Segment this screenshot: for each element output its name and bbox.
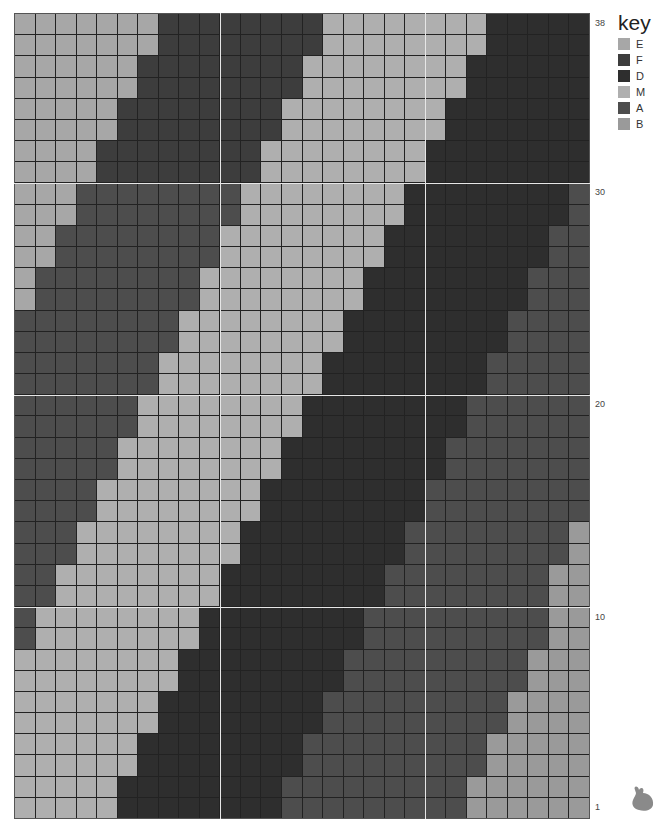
chart-cell — [97, 480, 117, 500]
chart-cell — [220, 544, 240, 564]
chart-cell — [220, 183, 240, 203]
chart-cell — [569, 120, 589, 140]
chart-cell — [97, 544, 117, 564]
chart-cell — [200, 247, 220, 267]
chart-cell — [569, 332, 589, 352]
chart-cell — [36, 353, 56, 373]
chart-cell — [159, 734, 179, 754]
chart-cell — [77, 544, 97, 564]
chart-cell — [56, 480, 76, 500]
chart-cell — [405, 99, 425, 119]
chart-cell — [179, 416, 199, 436]
chart-cell — [323, 353, 343, 373]
chart-cell — [508, 628, 528, 648]
chart-cell — [323, 374, 343, 394]
chart-cell — [385, 734, 405, 754]
chart-cell — [36, 374, 56, 394]
chart-cell — [77, 607, 97, 627]
chart-cell — [528, 777, 548, 797]
chart-cell — [97, 755, 117, 775]
chart-cell — [261, 544, 281, 564]
chart-cell — [303, 438, 323, 458]
chart-cell — [56, 586, 76, 606]
chart-cell — [77, 713, 97, 733]
chart-cell — [549, 692, 569, 712]
chart-cell — [56, 734, 76, 754]
chart-cell — [36, 205, 56, 225]
chart-cell — [487, 501, 507, 521]
chart-cell — [56, 332, 76, 352]
chart-cell — [549, 438, 569, 458]
chart-cell — [241, 416, 261, 436]
chart-cell — [159, 268, 179, 288]
chart-cell — [323, 289, 343, 309]
chart-cell — [426, 586, 446, 606]
chart-cell — [508, 544, 528, 564]
chart-cell — [220, 798, 240, 818]
chart-cell — [200, 777, 220, 797]
chart-cell — [179, 628, 199, 648]
chart-cell — [569, 14, 589, 34]
legend-label: A — [636, 102, 643, 114]
chart-cell — [405, 226, 425, 246]
chart-cell — [364, 205, 384, 225]
chart-cell — [159, 438, 179, 458]
chart-cell — [56, 522, 76, 542]
chart-cell — [200, 353, 220, 373]
chart-cell — [138, 120, 158, 140]
legend-item: E — [618, 36, 651, 52]
legend-item: B — [618, 116, 651, 132]
chart-cell — [220, 522, 240, 542]
chart-cell — [220, 374, 240, 394]
chart-cell — [241, 353, 261, 373]
chart-cell — [56, 438, 76, 458]
chart-cell — [138, 607, 158, 627]
chart-cell — [549, 777, 569, 797]
chart-cell — [446, 35, 466, 55]
chart-cell — [97, 14, 117, 34]
chart-cell — [385, 353, 405, 373]
chart-cell — [261, 78, 281, 98]
chart-cell — [323, 522, 343, 542]
chart-cell — [405, 289, 425, 309]
chart-cell — [261, 395, 281, 415]
chart-cell — [200, 14, 220, 34]
chart-cell — [487, 353, 507, 373]
chart-cell — [200, 586, 220, 606]
chart-cell — [364, 501, 384, 521]
chart-cell — [569, 56, 589, 76]
chart-cell — [159, 56, 179, 76]
chart-cell — [426, 35, 446, 55]
chart-cell — [344, 395, 364, 415]
chart-cell — [344, 14, 364, 34]
chart-cell — [241, 247, 261, 267]
chart-cell — [446, 56, 466, 76]
chart-cell — [549, 332, 569, 352]
chart-cell — [446, 289, 466, 309]
chart-cell — [15, 226, 35, 246]
chart-cell — [200, 522, 220, 542]
chart-cell — [508, 734, 528, 754]
chart-cell — [282, 522, 302, 542]
chart-cell — [56, 565, 76, 585]
chart-cell — [241, 205, 261, 225]
chart-cell — [15, 35, 35, 55]
chart-cell — [220, 416, 240, 436]
chart-cell — [385, 671, 405, 691]
chart-cell — [426, 205, 446, 225]
chart-cell — [323, 226, 343, 246]
chart-cell — [56, 183, 76, 203]
chart-cell — [467, 311, 487, 331]
chart-cell — [446, 692, 466, 712]
chart-cell — [487, 607, 507, 627]
chart-cell — [179, 78, 199, 98]
chart-cell — [364, 777, 384, 797]
chart-cell — [487, 650, 507, 670]
chart-cell — [569, 183, 589, 203]
chart-cell — [323, 544, 343, 564]
chart-cell — [77, 501, 97, 521]
chart-cell — [220, 247, 240, 267]
chart-cell — [282, 416, 302, 436]
chart-cell — [77, 353, 97, 373]
chart-cell — [15, 353, 35, 373]
